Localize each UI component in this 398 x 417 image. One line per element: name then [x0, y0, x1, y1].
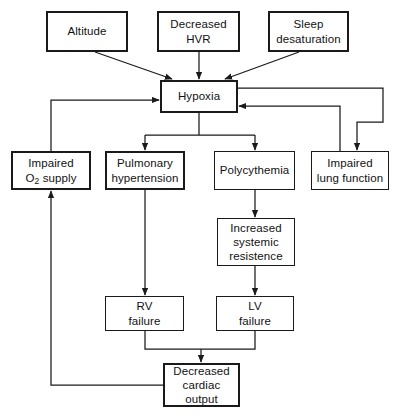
edge-failures-join — [145, 331, 255, 349]
node-impaired-lung-function[interactable]: Impaired lung function — [311, 151, 389, 190]
node-rv-failure[interactable]: RV failure — [105, 296, 184, 331]
flowchart-edges — [0, 0, 398, 417]
node-increased-systemic-resistence-label: Increased systemic resistence — [227, 221, 284, 263]
node-decreased-cardiac-output-label: Decreased cardiac output — [171, 364, 232, 406]
node-hypoxia[interactable]: Hypoxia — [160, 80, 238, 113]
edge-impaired-o2-to-hypoxia — [51, 100, 159, 151]
flowchart-canvas: Altitude Decreased HVR Sleep desaturatio… — [0, 0, 398, 417]
node-rv-failure-label: RV failure — [126, 299, 162, 327]
node-sleep-desaturation[interactable]: Sleep desaturation — [268, 11, 349, 52]
edge-hypoxia-to-impaired-lung — [238, 88, 383, 150]
node-sleep-desaturation-label: Sleep desaturation — [274, 17, 343, 45]
node-lv-failure-label: LV failure — [237, 299, 273, 327]
edge-sleep-to-hypoxia — [225, 52, 299, 79]
node-impaired-o2-supply[interactable]: Impaired O2 supply — [11, 151, 91, 190]
node-decreased-cardiac-output[interactable]: Decreased cardiac output — [163, 363, 240, 407]
node-impaired-o2-supply-label: Impaired O2 supply — [23, 156, 78, 184]
node-decreased-hvr[interactable]: Decreased HVR — [157, 11, 240, 52]
edge-hypoxia-trunk — [145, 113, 255, 135]
edge-impaired-lung-to-hypoxia — [239, 106, 340, 151]
node-decreased-hvr-label: Decreased HVR — [168, 17, 229, 45]
node-hypoxia-label: Hypoxia — [176, 89, 222, 103]
node-polycythemia-label: Polycythemia — [218, 163, 292, 177]
edge-altitude-to-hypoxia — [95, 52, 172, 79]
node-impaired-lung-function-label: Impaired lung function — [315, 156, 386, 184]
node-polycythemia[interactable]: Polycythemia — [214, 151, 295, 190]
node-increased-systemic-resistence[interactable]: Increased systemic resistence — [217, 218, 295, 266]
node-pulmonary-hypertension-label: Pulmonary hypertension — [109, 156, 180, 184]
node-pulmonary-hypertension[interactable]: Pulmonary hypertension — [105, 151, 185, 190]
edge-output-to-impaired-o2 — [51, 191, 163, 385]
node-altitude-label: Altitude — [65, 24, 108, 38]
node-altitude[interactable]: Altitude — [46, 11, 128, 52]
node-lv-failure[interactable]: LV failure — [216, 296, 294, 331]
